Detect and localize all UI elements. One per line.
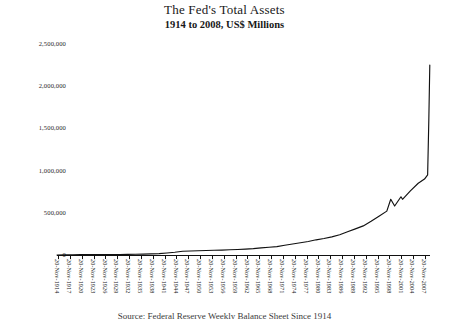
x-axis-tick-label: 20-Nov-1926 xyxy=(102,259,109,293)
x-axis-tick-label: 20-Nov-1935 xyxy=(137,259,144,293)
x-axis-tick-label: 20-Nov-1953 xyxy=(208,259,215,293)
chart-footnote: Source: Federal Reserve Weekly Balance S… xyxy=(0,311,449,319)
x-axis-tick-label: 20-Nov-2004 xyxy=(409,259,416,293)
x-axis-tick-label: 20-Nov-1950 xyxy=(196,259,203,293)
x-axis-tick-label: 20-Nov-1959 xyxy=(232,259,239,293)
x-axis-tick-label: 20-Nov-1992 xyxy=(362,259,369,293)
x-axis-tick-label: 20-Nov-1989 xyxy=(350,259,357,293)
x-axis-tick-label: 20-Nov-1977 xyxy=(303,259,310,293)
x-axis-tick-label: 20-Nov-1938 xyxy=(149,259,156,293)
x-axis-tick-label: 20-Nov-1956 xyxy=(220,259,227,293)
chart-title: The Fed's Total Assets xyxy=(0,2,449,18)
x-axis-tick-label: 20-Nov-2001 xyxy=(398,259,405,293)
x-axis-tick-label: 20-Nov-1932 xyxy=(125,259,132,293)
x-axis-tick-label: 20-Nov-1980 xyxy=(315,259,322,293)
data-series-line xyxy=(57,40,430,255)
chart-subtitle: 1914 to 2008, US$ Millions xyxy=(0,19,449,30)
x-axis-tick-label: 20-Nov-1983 xyxy=(326,259,333,293)
x-axis-tick-label: 20-Nov-1917 xyxy=(66,259,73,293)
x-axis-tick-label: 20-Nov-1962 xyxy=(244,259,251,293)
x-axis-tick-label: 20-Nov-1998 xyxy=(386,259,393,293)
x-axis-tick-label: 20-Nov-1944 xyxy=(173,259,180,293)
x-axis-tick-label: 20-Nov-1947 xyxy=(184,259,191,293)
plot-area xyxy=(57,40,430,255)
x-axis-tick-label: 20-Nov-2007 xyxy=(421,259,428,293)
x-axis-tick-label: 20-Nov-1923 xyxy=(90,259,97,293)
x-axis-tick-label: 20-Nov-1971 xyxy=(279,259,286,293)
x-axis-tick-label: 20-Nov-1929 xyxy=(113,259,120,293)
x-axis-tick-labels: 20-Nov-191420-Nov-191720-Nov-192020-Nov-… xyxy=(57,259,430,317)
x-axis-tick-label: 20-Nov-1941 xyxy=(161,259,168,293)
x-axis-tick-label: 20-Nov-1914 xyxy=(54,259,61,293)
x-axis-tick-label: 20-Nov-1974 xyxy=(291,259,298,293)
x-axis-tick-label: 20-Nov-1995 xyxy=(374,259,381,293)
x-axis-tick-label: 20-Nov-1920 xyxy=(78,259,85,293)
x-axis-tick-label: 20-Nov-1986 xyxy=(338,259,345,293)
x-axis-tick-label: 20-Nov-1968 xyxy=(267,259,274,293)
x-axis-tick-label: 20-Nov-1965 xyxy=(255,259,262,293)
